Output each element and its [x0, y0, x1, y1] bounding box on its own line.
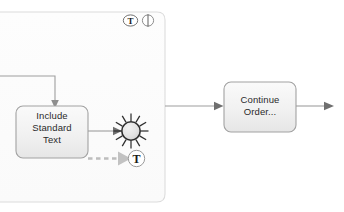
- text-annotation-glyph: T: [127, 16, 133, 26]
- burst-text-marker[interactable]: T: [128, 150, 144, 166]
- text-annotation-marker[interactable]: T: [123, 15, 137, 26]
- container-to-continue-connector[interactable]: [165, 102, 224, 110]
- diagram-svg: T: [0, 0, 344, 212]
- continue-order-node[interactable]: [224, 82, 296, 132]
- diagram-canvas: T: [0, 0, 344, 212]
- burst-text-marker-glyph: T: [132, 152, 140, 166]
- include-standard-text-node[interactable]: [16, 106, 88, 158]
- attachment-marker[interactable]: [142, 14, 153, 27]
- continue-outbound-connector[interactable]: [296, 102, 334, 110]
